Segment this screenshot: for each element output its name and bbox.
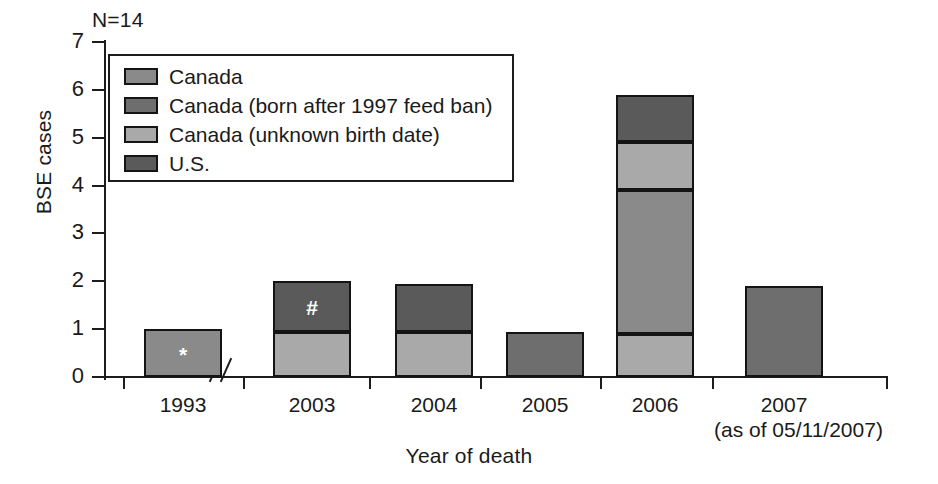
y-tick-label-3: 3 [52, 221, 84, 243]
legend-label: U.S. [169, 153, 210, 174]
legend-swatch-icon [124, 68, 158, 85]
legend-label: Canada (unknown birth date) [169, 124, 440, 145]
bse-cases-bar-chart: N=14 BSE cases Year of death 01234567 19… [0, 0, 938, 484]
y-tick-0 [92, 376, 104, 378]
legend-item-3: U.S. [110, 149, 512, 178]
bar-segment-2003-0 [273, 332, 351, 377]
bar-segment-2007-0 [745, 286, 823, 377]
y-tick-label-5: 5 [52, 126, 84, 148]
bar-segment-1993-0: * [144, 329, 222, 377]
legend-label: Canada (born after 1997 feed ban) [169, 95, 492, 116]
x-tick-label-year: 2005 [522, 393, 569, 416]
bar-segment-2004-1 [395, 284, 473, 332]
x-tick-0 [123, 378, 125, 389]
sample-size-annotation: N=14 [92, 8, 144, 32]
legend-item-0: Canada [110, 62, 512, 91]
bar-marker-star: * [146, 344, 220, 365]
bar-segment-2006-2 [616, 142, 694, 190]
bar-2006 [616, 95, 694, 377]
y-tick-label-1: 1 [52, 317, 84, 339]
y-tick-label-2: 2 [52, 269, 84, 291]
bar-segment-2006-3 [616, 95, 694, 143]
bar-2004 [395, 284, 473, 377]
bar-marker-hash: # [275, 297, 349, 318]
x-tick-label-year: 2003 [289, 393, 336, 416]
y-tick-7 [92, 41, 104, 43]
x-tick-label-2007: 2007(as of 05/11/2007) [714, 392, 854, 443]
y-tick-label-0: 0 [52, 365, 84, 387]
y-tick-label-6: 6 [52, 78, 84, 100]
x-tick-sublabel: (as of 05/11/2007) [714, 417, 854, 443]
bar-segment-2003-1: # [273, 281, 351, 331]
bar-2003: # [273, 281, 351, 377]
x-tick-label-year: 2006 [632, 393, 679, 416]
x-tick-3 [480, 378, 482, 389]
y-axis-line [104, 40, 106, 380]
y-tick-2 [92, 280, 104, 282]
y-tick-6 [92, 89, 104, 91]
x-tick-label-2006: 2006 [585, 392, 725, 417]
y-tick-1 [92, 328, 104, 330]
y-tick-4 [92, 185, 104, 187]
x-tick-label-year: 1993 [160, 393, 207, 416]
bar-segment-2006-0 [616, 334, 694, 377]
x-tick-label-2003: 2003 [242, 392, 382, 417]
bar-segment-2006-1 [616, 190, 694, 334]
x-tick-label-year: 2004 [411, 393, 458, 416]
chart-legend: CanadaCanada (born after 1997 feed ban)C… [108, 54, 514, 182]
x-tick-label-1993: 1993 [113, 392, 253, 417]
legend-item-2: Canada (unknown birth date) [110, 120, 512, 149]
x-tick-label-year: 2007 [761, 393, 808, 416]
y-tick-3 [92, 232, 104, 234]
bar-2005 [506, 332, 584, 377]
x-tick-4 [600, 378, 602, 389]
bar-segment-2005-0 [506, 332, 584, 377]
x-tick-1 [243, 378, 245, 389]
x-tick-2 [369, 378, 371, 389]
y-tick-label-7: 7 [52, 30, 84, 52]
y-tick-5 [92, 137, 104, 139]
legend-item-1: Canada (born after 1997 feed ban) [110, 91, 512, 120]
x-axis-title: Year of death [0, 444, 938, 468]
legend-swatch-icon [124, 126, 158, 143]
bar-2007 [745, 286, 823, 377]
bar-1993: * [144, 329, 222, 377]
bar-segment-2004-0 [395, 332, 473, 377]
legend-swatch-icon [124, 155, 158, 172]
y-tick-label-4: 4 [52, 174, 84, 196]
legend-swatch-icon [124, 97, 158, 114]
legend-label: Canada [169, 66, 243, 87]
x-tick-5 [712, 378, 714, 389]
y-axis-title: BSE cases [32, 82, 56, 242]
x-tick-6 [886, 378, 888, 389]
